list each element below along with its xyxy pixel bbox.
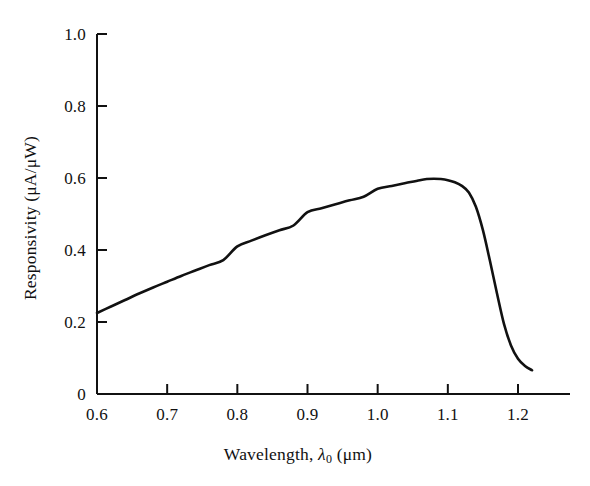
y-tick-label: 0.6 — [34, 170, 86, 187]
figure-container: 00.20.40.60.81.0 0.60.70.80.91.01.11.2 W… — [0, 0, 590, 486]
y-axis-ticks — [97, 34, 107, 322]
y-tick-label: 1.0 — [34, 26, 86, 43]
y-tick-label: 0.4 — [34, 242, 86, 259]
x-axis-title-text: Wavelength, — [224, 444, 314, 464]
y-axis-title-text: Responsivity (μA/μW) — [20, 136, 40, 300]
responsivity-curve — [97, 179, 532, 371]
x-tick-label: 1.0 — [367, 406, 389, 423]
y-axis-title: Responsivity (μA/μW) — [20, 18, 41, 418]
x-axis-unit: (μm) — [337, 444, 372, 464]
y-tick-label: 0.2 — [34, 314, 86, 331]
x-axis-title: Wavelength, λ0 (μm) — [224, 444, 372, 465]
x-tick-label: 0.8 — [226, 406, 248, 423]
x-axis-symbol-subscript: 0 — [326, 452, 332, 466]
x-tick-label: 0.7 — [156, 406, 178, 423]
y-tick-label: 0.8 — [34, 98, 86, 115]
x-tick-label: 1.1 — [437, 406, 459, 423]
x-tick-label: 0.9 — [297, 406, 319, 423]
y-tick-label: 0 — [34, 386, 86, 403]
axis-spines — [97, 34, 570, 394]
x-axis-symbol: λ — [318, 444, 326, 464]
x-axis-ticks — [167, 384, 518, 394]
x-tick-label: 0.6 — [86, 406, 108, 423]
x-tick-label: 1.2 — [507, 406, 529, 423]
